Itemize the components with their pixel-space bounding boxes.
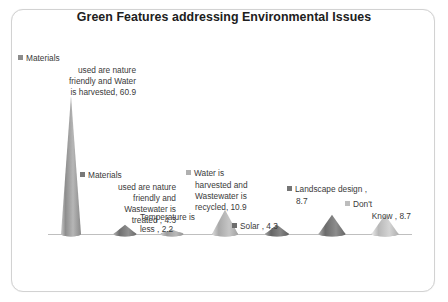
cone-marker[interactable]: Materials used are nature friendly and W… [114, 225, 137, 237]
legend-key-icon [287, 186, 292, 191]
data-label-dont-know: Don't Know , 8.7 [345, 177, 411, 222]
data-label-materials-water-harvested: Materials used are nature friendly and W… [18, 31, 136, 98]
chart-area[interactable]: Green Features addressing Environmental … [0, 0, 448, 302]
legend-key-icon [232, 223, 237, 228]
legend-key-icon [80, 172, 85, 177]
legend-key-icon [186, 170, 191, 175]
legend-key-icon [18, 55, 23, 60]
cone-marker[interactable]: Materials used are nature friendly and W… [61, 96, 81, 237]
legend-key-icon [345, 201, 350, 206]
